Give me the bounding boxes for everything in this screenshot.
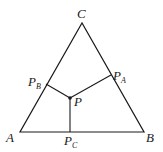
label-pb: P B [27, 74, 41, 91]
label-pb-sub: B [36, 82, 41, 91]
label-pc-sub: C [72, 141, 78, 150]
label-pc-main: P [63, 133, 72, 148]
label-a: A [5, 130, 14, 145]
label-pa-main: P [112, 68, 121, 83]
label-p: P [73, 94, 82, 109]
label-pc: P C [63, 133, 78, 150]
label-pb-main: P [27, 74, 36, 89]
triangle-diagram: C A B P P A P B P C [0, 0, 163, 152]
label-pa-sub: A [120, 76, 126, 85]
point-p [68, 96, 72, 100]
segment-p-pb [46, 84, 70, 98]
label-pa: P A [112, 68, 126, 85]
label-c: C [77, 6, 86, 21]
label-b: B [146, 130, 154, 145]
